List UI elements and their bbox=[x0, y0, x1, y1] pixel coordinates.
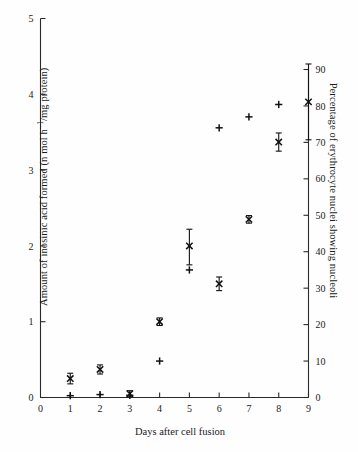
axis-left-bottom bbox=[41, 19, 309, 398]
y-ticklabel-left: 4 bbox=[29, 89, 34, 100]
y-ticklabel-right: 70 bbox=[316, 137, 326, 148]
y-ticklabel-left: 5 bbox=[29, 13, 34, 24]
chart-svg: 01234501020304050607080900123456789 bbox=[0, 0, 358, 452]
y-ticklabel-right: 20 bbox=[316, 319, 326, 330]
x-ticklabel: 5 bbox=[187, 403, 192, 414]
y-ticklabel-left: 3 bbox=[29, 165, 34, 176]
y-ticklabel-right: 0 bbox=[316, 392, 321, 403]
y-ticklabel-left: 2 bbox=[29, 241, 34, 252]
x-ticklabel: 6 bbox=[217, 403, 222, 414]
x-ticklabel: 0 bbox=[38, 403, 43, 414]
y-ticklabel-right: 50 bbox=[316, 210, 326, 221]
y-ticklabel-right: 90 bbox=[316, 64, 326, 75]
x-axis-title: Days after cell fusion bbox=[60, 426, 300, 437]
x-ticklabel: 4 bbox=[157, 403, 162, 414]
x-ticklabel: 3 bbox=[127, 403, 132, 414]
x-ticklabel: 1 bbox=[68, 403, 73, 414]
y-ticklabel-right: 30 bbox=[316, 283, 326, 294]
y-ticklabel-right: 60 bbox=[316, 173, 326, 184]
y-ticklabel-right: 80 bbox=[316, 101, 326, 112]
y-ticklabel-right: 10 bbox=[316, 356, 326, 367]
y-ticklabel-left: 0 bbox=[29, 392, 34, 403]
chart-figure: 01234501020304050607080900123456789 Amou… bbox=[0, 0, 358, 452]
x-ticklabel: 7 bbox=[246, 403, 251, 414]
x-ticklabel: 2 bbox=[98, 403, 103, 414]
y-ticklabel-left: 1 bbox=[29, 316, 34, 327]
x-ticklabel: 9 bbox=[306, 403, 311, 414]
y-ticklabel-right: 40 bbox=[316, 246, 326, 257]
x-ticklabel: 8 bbox=[276, 403, 281, 414]
